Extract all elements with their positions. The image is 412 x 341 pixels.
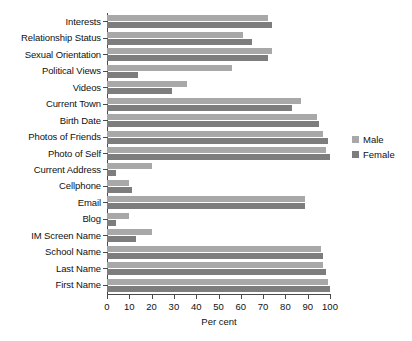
y-axis-label: Blog (0, 214, 101, 224)
bar-female (107, 39, 252, 45)
legend-label-male: Male (363, 134, 384, 145)
bar-male (107, 114, 317, 120)
y-axis-label: Cellphone (0, 181, 101, 191)
y-axis-tick (103, 153, 108, 154)
bar-chart: InterestsRelationship StatusSexual Orien… (0, 0, 412, 341)
legend-swatch-male-icon (352, 136, 359, 143)
y-axis-label: Sexual Orientation (0, 50, 101, 60)
bar-male (107, 196, 305, 202)
y-axis-tick (103, 235, 108, 236)
y-axis-label: Photo of Self (0, 149, 101, 159)
x-axis-tick-label: 100 (317, 301, 343, 312)
y-axis-label: Videos (0, 83, 101, 93)
bar-male (107, 246, 321, 252)
bar-male (107, 65, 232, 71)
y-axis-tick (103, 71, 108, 72)
y-axis-tick (103, 219, 108, 220)
plot-area (107, 14, 330, 294)
bar-male (107, 98, 301, 104)
bar-female (107, 22, 272, 28)
bar-male (107, 81, 187, 87)
bar-female (107, 187, 132, 193)
bar-female (107, 170, 116, 176)
bar-female (107, 236, 136, 242)
y-axis-label: Email (0, 198, 101, 208)
x-axis-tick (285, 294, 286, 299)
y-axis-tick (103, 120, 108, 121)
y-axis-tick (103, 38, 108, 39)
y-axis-label: Birth Date (0, 116, 101, 126)
x-axis-tick (107, 294, 108, 299)
y-axis-label: Current Town (0, 99, 101, 109)
bar-male (107, 213, 129, 219)
bar-female (107, 203, 305, 209)
y-axis-label: Relationship Status (0, 33, 101, 43)
bar-male (107, 131, 323, 137)
y-axis-label: First Name (0, 280, 101, 290)
y-axis-tick (103, 268, 108, 269)
bar-male (107, 15, 268, 21)
bar-male (107, 279, 328, 285)
y-axis-tick (103, 21, 108, 22)
y-axis-label: Political Views (0, 66, 101, 76)
bar-female (107, 72, 138, 78)
y-axis-category-labels: InterestsRelationship StatusSexual Orien… (0, 14, 101, 294)
x-axis-tick (308, 294, 309, 299)
y-axis-tick (103, 87, 108, 88)
chart-legend: Male Female (352, 132, 410, 162)
y-axis-label: Photos of Friends (0, 132, 101, 142)
bar-male (107, 163, 152, 169)
y-axis-tick (103, 202, 108, 203)
bar-female (107, 105, 292, 111)
x-axis-tick (152, 294, 153, 299)
legend-item-female: Female (352, 147, 410, 162)
x-axis-tick (241, 294, 242, 299)
x-axis-tick (129, 294, 130, 299)
bar-male (107, 32, 243, 38)
bar-male (107, 147, 326, 153)
bar-female (107, 55, 268, 61)
x-axis-tick (263, 294, 264, 299)
y-axis-tick (103, 169, 108, 170)
y-axis-tick (103, 285, 108, 286)
x-axis-tick (330, 294, 331, 299)
legend-swatch-female-icon (352, 151, 359, 158)
bar-female (107, 138, 328, 144)
bar-female (107, 88, 172, 94)
bar-female (107, 220, 116, 226)
y-axis-tick (103, 252, 108, 253)
y-axis-tick (103, 137, 108, 138)
y-axis-tick (103, 104, 108, 105)
bar-male (107, 48, 272, 54)
bar-male (107, 229, 152, 235)
legend-label-female: Female (363, 149, 395, 160)
bar-female (107, 253, 323, 259)
y-axis-tick (103, 54, 108, 55)
y-axis-label: Current Address (0, 165, 101, 175)
x-axis-title: Per cent (107, 316, 331, 327)
x-axis-tick (196, 294, 197, 299)
legend-item-male: Male (352, 132, 410, 147)
x-axis-tick (174, 294, 175, 299)
y-axis-label: IM Screen Name (0, 231, 101, 241)
y-axis-label: Interests (0, 17, 101, 27)
bar-female (107, 121, 319, 127)
x-axis-tick (219, 294, 220, 299)
y-axis-label: Last Name (0, 264, 101, 274)
y-axis-label: School Name (0, 247, 101, 257)
bar-male (107, 180, 129, 186)
bar-female (107, 154, 330, 160)
bar-female (107, 286, 330, 292)
bar-female (107, 269, 326, 275)
y-axis-tick (103, 186, 108, 187)
bar-male (107, 262, 323, 268)
